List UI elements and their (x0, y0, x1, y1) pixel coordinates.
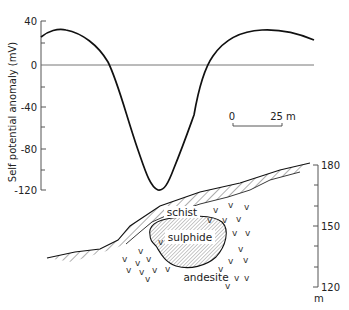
svg-text:v: v (122, 254, 128, 264)
self-potential-diagram: 40 0 -40 -80 -120 Self potential anomaly… (0, 0, 349, 310)
cross-section: sulphide schist andesite v v v v v v v v… (47, 163, 310, 291)
elev-tick-120: 120 (321, 282, 340, 293)
svg-text:v: v (218, 264, 224, 274)
scale-end: 25 m (270, 111, 296, 122)
svg-text:v: v (228, 256, 234, 266)
sp-curve (41, 29, 314, 190)
svg-text:v: v (138, 246, 144, 256)
svg-text:v: v (234, 273, 240, 283)
svg-text:v: v (238, 244, 244, 254)
svg-text:v: v (222, 215, 228, 225)
sulphide-label: sulphide (168, 231, 212, 243)
svg-text:v: v (146, 254, 152, 264)
y-axis-title: Self potential anomaly (mV) (7, 42, 18, 182)
y-tick-minus80: -80 (21, 144, 37, 155)
y-tick-minus120: -120 (14, 185, 37, 196)
svg-text:v: v (243, 255, 249, 265)
y-tick-minus40: -40 (21, 102, 37, 113)
elev-unit: m (314, 293, 324, 304)
svg-text:v: v (245, 228, 251, 238)
svg-text:v: v (244, 202, 250, 212)
svg-text:v: v (236, 214, 242, 224)
y-tick-40: 40 (24, 16, 37, 27)
schist-label: schist (167, 206, 197, 218)
svg-text:v: v (126, 265, 132, 275)
svg-text:v: v (228, 200, 234, 210)
svg-text:v: v (207, 215, 213, 225)
svg-text:v: v (152, 265, 158, 275)
elev-tick-180: 180 (321, 160, 340, 171)
svg-text:v: v (225, 281, 231, 291)
scale-zero: 0 (229, 111, 235, 122)
y-tick-0: 0 (31, 60, 37, 71)
svg-text:v: v (145, 274, 151, 284)
svg-text:v: v (165, 264, 171, 274)
elevation-axis: 180 150 120 m (313, 160, 340, 304)
svg-text:v: v (232, 228, 238, 238)
y-axis: 40 0 -40 -80 -120 Self potential anomaly… (7, 16, 46, 196)
svg-text:v: v (244, 273, 250, 283)
svg-text:v: v (158, 237, 164, 247)
svg-text:v: v (213, 205, 219, 215)
scale-bar: 0 25 m (229, 111, 296, 126)
elev-tick-150: 150 (321, 221, 340, 232)
